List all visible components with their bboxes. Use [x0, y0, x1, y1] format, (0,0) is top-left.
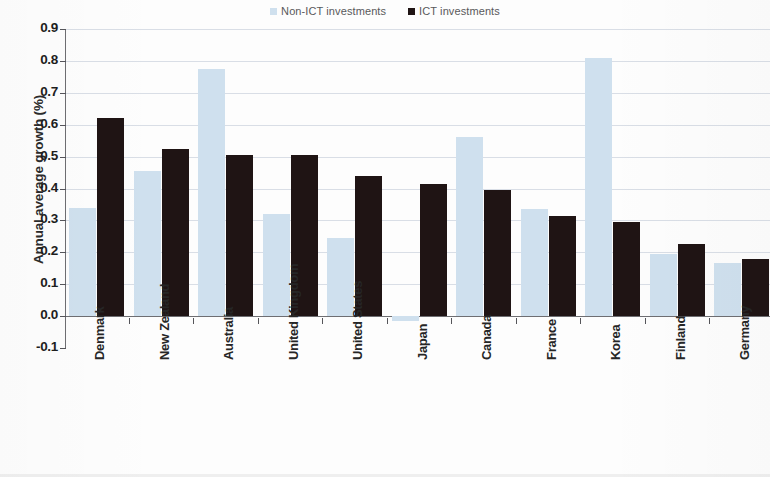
x-axis-label: Canada [479, 315, 494, 360]
bar [549, 216, 576, 316]
bar [456, 137, 483, 316]
x-axis-label: United Kingdom [286, 264, 301, 360]
y-tick-label: 0.6 [18, 116, 58, 131]
legend-entry-non-ict: Non-ICT investments [270, 5, 386, 17]
bar [97, 118, 124, 316]
bar [69, 208, 96, 316]
y-tick-label: 0.1 [18, 275, 58, 290]
bar [613, 222, 640, 316]
chart-legend: Non-ICT investments ICT investments [0, 2, 770, 20]
bar [678, 244, 705, 316]
y-tick-label: 0.3 [18, 211, 58, 226]
bar [585, 58, 612, 316]
x-axis-label: New Zealand [157, 284, 172, 360]
x-axis-label: Korea [608, 325, 623, 360]
x-tick-mark [516, 318, 517, 324]
bar [484, 190, 511, 316]
x-tick-mark [322, 318, 323, 324]
y-tick-label: 0.9 [18, 20, 58, 35]
y-tick-mark [60, 348, 66, 349]
x-axis-label: Australia [221, 307, 236, 360]
y-tick-label: 0.2 [18, 243, 58, 258]
y-tick-label: 0.0 [18, 307, 58, 322]
x-tick-mark [193, 318, 194, 324]
square-swatch-icon [408, 8, 415, 15]
y-tick-label: 0.7 [18, 84, 58, 99]
x-tick-mark [129, 318, 130, 324]
y-tick-label: 0.4 [18, 180, 58, 195]
x-axis-label: Finland [673, 316, 688, 360]
x-tick-mark [709, 318, 710, 324]
gridline [66, 125, 770, 126]
bar [226, 155, 253, 316]
bar [420, 184, 447, 316]
y-tick-label: -0.1 [18, 339, 58, 354]
x-tick-mark [580, 318, 581, 324]
bar [521, 209, 548, 316]
square-swatch-icon [270, 8, 277, 15]
legend-entry-ict: ICT investments [408, 5, 500, 17]
x-axis-label: Japan [415, 324, 430, 360]
bar [198, 69, 225, 316]
x-tick-mark [258, 318, 259, 324]
x-tick-mark [645, 318, 646, 324]
x-tick-mark [387, 318, 388, 324]
x-axis-label: Germany [737, 306, 752, 360]
legend-label-non-ict: Non-ICT investments [281, 5, 386, 17]
gridline [66, 93, 770, 94]
gridline [66, 61, 770, 62]
x-axis-label: France [544, 319, 559, 360]
x-tick-mark [451, 318, 452, 324]
x-axis-label: Denmark [92, 306, 107, 360]
y-tick-label: 0.5 [18, 148, 58, 163]
legend-label-ict: ICT investments [419, 5, 500, 17]
y-tick-label: 0.8 [18, 52, 58, 67]
bar [650, 254, 677, 316]
gridline [66, 29, 770, 30]
bar [392, 316, 419, 321]
chart-page: Non-ICT investments ICT investments Annu… [0, 0, 770, 477]
x-axis-label: United States [350, 281, 365, 360]
